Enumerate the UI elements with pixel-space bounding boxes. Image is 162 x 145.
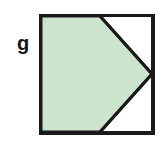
geometry-figure: g xyxy=(0,0,162,145)
figure-canvas: g xyxy=(0,0,162,145)
side-label-g: g xyxy=(17,32,29,54)
